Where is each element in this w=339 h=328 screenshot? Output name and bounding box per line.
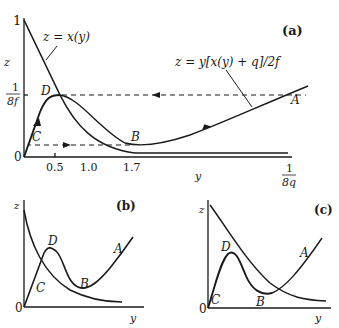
point-D: D [47, 234, 58, 248]
point-B: B [79, 277, 89, 291]
y-end-num: 1 [286, 162, 293, 175]
z-axis-label: z [3, 56, 10, 69]
y-axis-label: y [129, 312, 137, 325]
arrow-left-icon [63, 142, 71, 148]
leader-y-curve [226, 70, 252, 107]
y-axis-label: y [314, 312, 322, 325]
point-B: B [130, 130, 140, 144]
point-D: D [40, 84, 51, 98]
arrow-down-left-icon [202, 124, 212, 131]
z-axis-label: z [13, 200, 20, 211]
panel-tag: (c) [314, 203, 333, 217]
point-C: C [36, 281, 45, 295]
panel-b: (b) z 0 y D C B A [13, 199, 144, 325]
arrow-right-icon [152, 92, 160, 98]
point-B: B [255, 295, 265, 309]
y-tick-2: 1.7 [123, 161, 141, 174]
point-A: A [290, 93, 300, 107]
point-C: C [211, 293, 220, 307]
origin-label: 0 [14, 150, 22, 164]
leader-x-of-y [46, 46, 57, 60]
curve-label-y-expr: z = y[x(y) + q]/2f [174, 55, 282, 69]
point-A: A [299, 246, 309, 260]
point-D: D [220, 240, 231, 254]
curve-branch-CD [24, 95, 60, 157]
origin-label: 0 [15, 301, 23, 315]
panel-tag: (a) [282, 23, 303, 38]
z-tick-one: 1 [13, 13, 21, 28]
y-tick-0: 0.5 [46, 161, 64, 174]
origin-label: 0 [199, 302, 207, 316]
panel-tag: (b) [116, 199, 136, 213]
z-axis-label: z [198, 204, 205, 215]
y-tick-1: 1.0 [80, 161, 98, 174]
y-end-den: 8q [282, 176, 296, 189]
y-axis-label: y [194, 170, 202, 183]
point-A: A [113, 242, 123, 256]
z-tick-frac-den: 8f [7, 95, 20, 108]
curve-label-x-of-y: z = x(y) [42, 30, 90, 44]
panel-a: (a) z 1 1 8f 0 0.5 1.0 1.7 y 1 8q z = x(… [3, 13, 308, 189]
panel-c: (c) z 0 y D C B A [198, 200, 333, 325]
figure: (a) z 1 1 8f 0 0.5 1.0 1.7 y 1 8q z = x(… [0, 0, 339, 328]
z-tick-frac-num: 1 [12, 81, 19, 94]
point-C: C [32, 130, 41, 144]
curve-y-expr-thin [272, 238, 322, 293]
